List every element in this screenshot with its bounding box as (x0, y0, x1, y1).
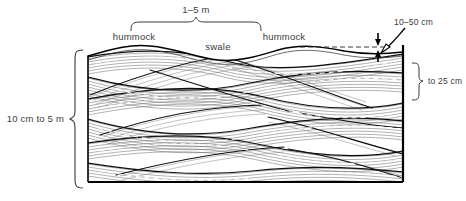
stratification-fill (86, 42, 406, 186)
relief-arrow-head-down (375, 39, 381, 46)
hummock-left-label: hummock (113, 31, 156, 42)
diagram-canvas: 1–5 m hummock swale hummock 10–50 cm to … (0, 0, 466, 201)
bed-thickness-brace (70, 50, 83, 188)
hummock-right-label: hummock (263, 31, 306, 42)
set-thickness-brace (412, 63, 423, 100)
set-thickness-label: to 25 cm (428, 76, 462, 86)
hummocky-cross-stratification-diagram: 1–5 m hummock swale hummock 10–50 cm to … (0, 0, 466, 201)
wavelength-brace (131, 17, 261, 31)
wavelength-label: 1–5 m (182, 4, 209, 15)
bed-thickness-label: 10 cm to 5 m (7, 113, 64, 124)
relief-leader-arrowhead (381, 44, 390, 53)
swale-label: swale (205, 41, 230, 52)
relief-label: 10–50 cm (394, 17, 433, 27)
